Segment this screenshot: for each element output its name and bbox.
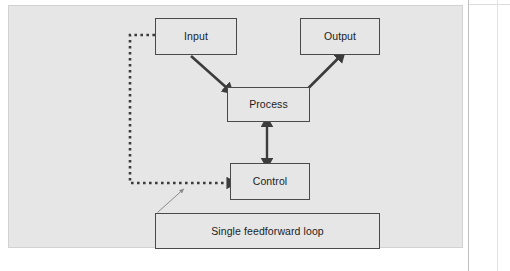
node-process-label: Process bbox=[249, 99, 288, 110]
connector-process-to-output bbox=[308, 57, 340, 89]
connector-input-to-control-feedforward bbox=[130, 35, 228, 183]
node-caption-label: Single feedforward loop bbox=[211, 226, 324, 237]
node-process[interactable]: Process bbox=[227, 87, 310, 122]
figure-root: Input Output Process Control Single feed… bbox=[0, 0, 510, 271]
node-caption-box[interactable]: Single feedforward loop bbox=[155, 213, 380, 249]
node-input-label: Input bbox=[184, 31, 208, 42]
connector-input-to-process bbox=[191, 56, 228, 89]
node-output[interactable]: Output bbox=[300, 18, 380, 55]
node-output-label: Output bbox=[324, 31, 356, 42]
node-control[interactable]: Control bbox=[230, 163, 310, 200]
connector-caption-leader bbox=[158, 191, 183, 213]
node-input[interactable]: Input bbox=[155, 18, 237, 55]
node-control-label: Control bbox=[253, 176, 288, 187]
